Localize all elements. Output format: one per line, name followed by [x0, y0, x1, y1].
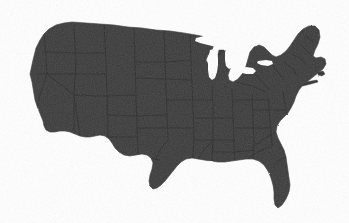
map-canvas[interactable]: United States of America — [0, 0, 349, 223]
united-states-map[interactable] — [0, 0, 349, 223]
